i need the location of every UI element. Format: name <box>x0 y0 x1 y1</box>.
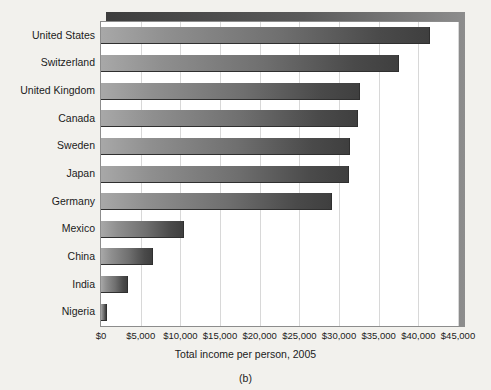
category-label: Canada <box>0 112 95 124</box>
bar-chart-figure: United StatesSwitzerlandUnited KingdomCa… <box>0 0 491 390</box>
x-tick-label: $30,000 <box>322 330 356 342</box>
category-label: Japan <box>0 167 95 179</box>
gridline <box>458 22 459 326</box>
category-label: Sweden <box>0 139 95 151</box>
x-tick-label: $45,000 <box>441 330 475 342</box>
bar <box>101 138 350 155</box>
category-axis-labels: United StatesSwitzerlandUnited KingdomCa… <box>0 21 95 327</box>
x-tick-label: $0 <box>96 330 107 342</box>
bars-group <box>101 22 458 326</box>
category-label: United Kingdom <box>0 84 95 96</box>
category-label: Mexico <box>0 222 95 234</box>
bar <box>101 83 360 100</box>
category-label: Switzerland <box>0 56 95 68</box>
bar <box>101 55 399 72</box>
x-tick-label: $15,000 <box>203 330 237 342</box>
bar <box>101 27 430 44</box>
x-axis-title: Total income per person, 2005 <box>0 348 491 360</box>
category-label: United States <box>0 29 95 41</box>
bar <box>101 276 128 293</box>
panel-label: (b) <box>0 372 491 384</box>
bar <box>101 166 349 183</box>
bar <box>101 110 358 127</box>
category-label: Nigeria <box>0 305 95 317</box>
bar <box>101 304 107 321</box>
category-label: India <box>0 278 95 290</box>
x-tick-label: $10,000 <box>163 330 197 342</box>
bar <box>101 193 332 210</box>
plot-area <box>100 21 459 327</box>
x-axis-tick-labels: $0$5,000$10,000$15,000$20,000$25,000$30,… <box>0 330 491 344</box>
x-tick-label: $5,000 <box>126 330 155 342</box>
x-tick-label: $40,000 <box>401 330 435 342</box>
category-label: Germany <box>0 195 95 207</box>
x-tick-label: $35,000 <box>361 330 395 342</box>
bar <box>101 248 153 265</box>
x-tick-label: $25,000 <box>282 330 316 342</box>
bar <box>101 221 184 238</box>
x-tick-label: $20,000 <box>242 330 276 342</box>
category-label: China <box>0 250 95 262</box>
